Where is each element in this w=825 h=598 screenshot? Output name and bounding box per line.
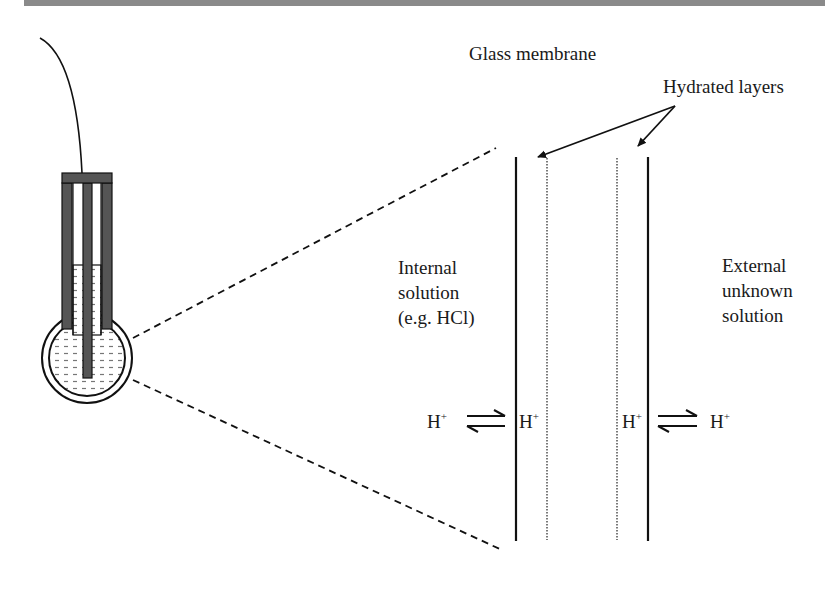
internal-solution-line-1: Internal — [398, 255, 475, 280]
external-solution-line-1: External — [722, 253, 793, 278]
electrode-wire — [40, 38, 82, 173]
glass-membrane-label: Glass membrane — [469, 41, 596, 66]
internal-solution-label: Internal solution (e.g. HCl) — [398, 255, 475, 330]
equilibrium-arrows-internal — [467, 410, 505, 432]
external-solution-line-3: solution — [722, 303, 793, 328]
equilibrium-arrows-external — [658, 410, 697, 432]
external-solution-label: External unknown solution — [722, 253, 793, 328]
ion-external-hydrated-layer: H+ — [622, 409, 642, 434]
ion-internal-solution: H+ — [427, 409, 447, 434]
internal-solution-line-3: (e.g. HCl) — [398, 305, 475, 330]
glass-membrane — [516, 157, 648, 541]
internal-solution-line-2: solution — [398, 280, 475, 305]
ion-internal-hydrated-layer: H+ — [519, 409, 539, 434]
external-solution-line-2: unknown — [722, 278, 793, 303]
ion-external-solution: H+ — [710, 409, 730, 434]
figure-canvas: Glass membrane Hydrated layers Internal … — [0, 0, 825, 598]
hydrated-layers-arrows — [538, 106, 675, 157]
zoom-guide-lines — [133, 148, 502, 550]
hydrated-layers-label: Hydrated layers — [663, 74, 784, 99]
